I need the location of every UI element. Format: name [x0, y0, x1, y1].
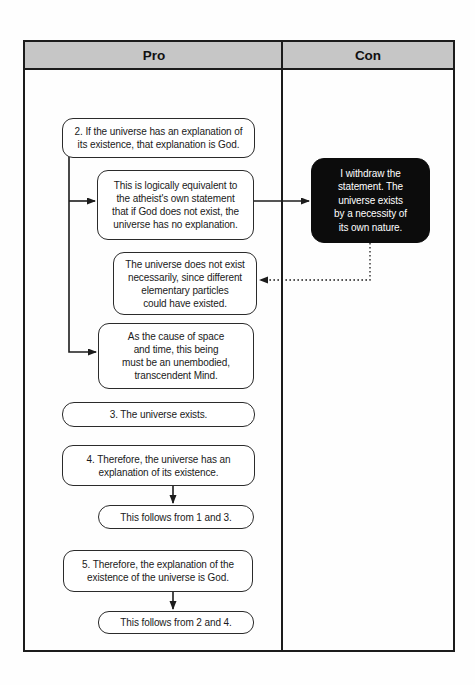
argument-map-page: Pro Con 2. If the universe has an explan…: [0, 0, 475, 685]
equivalence-note-box: This is logically equivalent to the athe…: [97, 170, 254, 240]
not-necessary-note-box: The universe does not exist necessarily,…: [113, 252, 257, 315]
premise-2-box: 2. If the universe has an explanation of…: [62, 118, 255, 158]
premise-4-box: 4. Therefore, the universe has an explan…: [62, 445, 255, 486]
table-header-row: Pro Con: [23, 40, 455, 70]
cause-mind-note-box: As the cause of space and time, this bei…: [98, 323, 254, 389]
premise-3-box: 3. The universe exists.: [62, 402, 255, 427]
premise-5-box: 5. Therefore, the explanation of the exi…: [63, 550, 253, 592]
follows-from-2-and-4-box: This follows from 2 and 4.: [98, 611, 254, 634]
withdraw-statement-box: I withdraw the statement. The universe e…: [311, 158, 430, 243]
header-cell-pro: Pro: [25, 42, 283, 68]
column-divider: [281, 40, 283, 652]
header-cell-con: Con: [283, 42, 453, 68]
follows-from-1-and-3-box: This follows from 1 and 3.: [98, 505, 254, 529]
